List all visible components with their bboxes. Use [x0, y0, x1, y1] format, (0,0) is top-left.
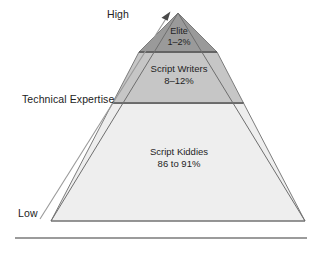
expertise-axis-arrowhead	[162, 12, 171, 21]
axis-title-technical-expertise: Technical Expertise	[22, 93, 114, 105]
tier-percent-script-kiddies: 86 to 91%	[107, 158, 251, 170]
tier-percent-elite: 1–2%	[148, 37, 210, 48]
tier-percent-script-writers: 8–12%	[120, 75, 238, 87]
axis-label-low: Low	[18, 207, 38, 219]
tier-label-script-kiddies: Script Kiddies 86 to 91%	[107, 146, 251, 170]
tier-name-script-kiddies: Script Kiddies	[107, 146, 251, 158]
tier-label-script-writers: Script Writers 8–12%	[120, 63, 238, 87]
axis-label-high: High	[107, 8, 129, 20]
tier-label-elite: Elite 1–2%	[148, 26, 210, 49]
tier-name-script-writers: Script Writers	[120, 63, 238, 75]
pyramid-figure: High Low Technical Expertise Elite 1–2% …	[0, 0, 321, 253]
tier-name-elite: Elite	[148, 26, 210, 37]
